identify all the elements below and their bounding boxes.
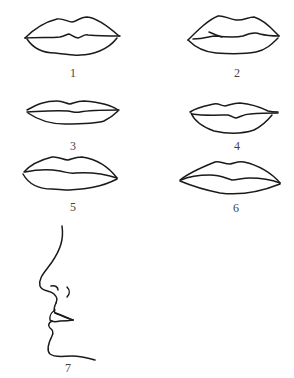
lips-label-6: 6 (233, 202, 239, 214)
lips-drawing-3 (27, 101, 119, 124)
drawing-canvas (0, 0, 294, 378)
profile-label-7: 7 (65, 362, 71, 374)
lips-drawing-2 (188, 16, 279, 54)
lips-drawing-6 (180, 162, 280, 194)
lips-drawing-5 (23, 157, 117, 190)
lips-illustration-sheet: 1 2 3 4 5 6 7 (0, 0, 294, 378)
face-profile-drawing-7 (40, 226, 95, 360)
lips-label-3: 3 (70, 140, 76, 152)
lips-label-1: 1 (70, 67, 76, 79)
lips-label-2: 2 (234, 67, 240, 79)
lips-label-5: 5 (70, 201, 76, 213)
lips-drawing-4 (190, 103, 278, 133)
lips-drawing-1 (25, 17, 120, 55)
lips-label-4: 4 (234, 140, 240, 152)
